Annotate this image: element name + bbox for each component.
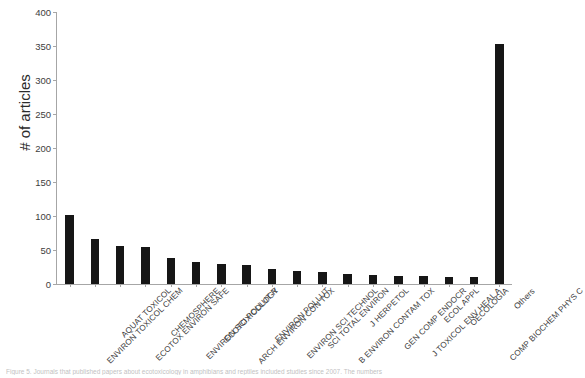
bar: [419, 276, 428, 284]
y-tick-label-150: 150: [35, 177, 51, 188]
y-tick-mark: [53, 46, 56, 47]
y-tick-label-100: 100: [35, 211, 51, 222]
y-tick-label-250: 250: [35, 109, 51, 120]
y-tick-label-400: 400: [35, 7, 51, 18]
bar: [318, 272, 327, 284]
x-tick-label: ENVIRON TOXICOL CHEM: [105, 286, 184, 365]
bar: [116, 246, 125, 284]
y-tick-mark: [53, 12, 56, 13]
bar: [167, 258, 176, 284]
y-tick-mark: [53, 114, 56, 115]
x-tick-label: GEN COMP ENDOCR: [402, 286, 468, 352]
bar: [369, 275, 378, 284]
x-axis-line: [56, 284, 512, 285]
y-tick-mark: [53, 250, 56, 251]
x-tick-label: ENVIRON POLLUT: [273, 286, 331, 344]
x-tick-label: Others: [512, 286, 537, 311]
plot-area: 050100150200250300350400: [56, 12, 512, 284]
bar: [470, 277, 479, 284]
y-tick-mark: [53, 284, 56, 285]
x-axis-labels: ENVIRON TOXICOL CHEMAQUAT TOXICOLECOTOX …: [56, 286, 518, 358]
bar: [268, 269, 277, 284]
y-tick-mark: [53, 80, 56, 81]
x-tick-label: ECOTOXICOLOGY: [222, 286, 280, 344]
bar: [91, 239, 100, 284]
bar: [141, 247, 150, 284]
y-tick-mark: [53, 216, 56, 217]
x-tick-label: AQUAT TOXICOL: [119, 286, 173, 340]
bar-series: [57, 12, 512, 284]
bar: [445, 277, 454, 284]
bar: [394, 276, 403, 284]
y-axis-title: # of articles: [16, 43, 33, 183]
bar: [293, 271, 302, 284]
bar: [217, 264, 226, 284]
y-tick-mark: [53, 148, 56, 149]
y-tick-label-0: 0: [46, 279, 51, 290]
bar: [495, 44, 504, 284]
bar: [242, 265, 251, 284]
y-tick-label-300: 300: [35, 75, 51, 86]
bar: [192, 262, 201, 284]
bar: [65, 215, 74, 284]
y-tick-label-50: 50: [40, 245, 51, 256]
y-tick-label-200: 200: [35, 143, 51, 154]
y-tick-label-350: 350: [35, 41, 51, 52]
figure-caption: Figure 5. Journals that published papers…: [6, 368, 514, 375]
y-tick-mark: [53, 182, 56, 183]
bar: [343, 274, 352, 284]
